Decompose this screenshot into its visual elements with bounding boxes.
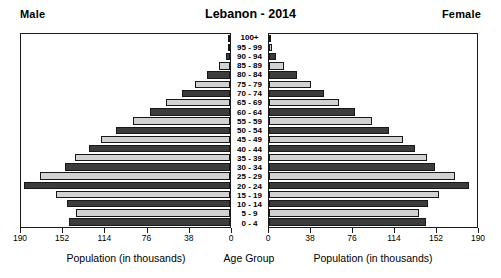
age-group-label: 55 - 59 (231, 117, 268, 126)
bar-row (21, 52, 230, 61)
bar-row (269, 144, 477, 153)
female-bar-0-4 (269, 218, 426, 225)
bar-row (269, 181, 477, 190)
bar-row (21, 163, 230, 172)
bar-row (21, 43, 230, 52)
female-plot-area (268, 33, 478, 228)
axis-tick-label: 114 (387, 233, 401, 243)
axis-tick-label: 0 (266, 233, 271, 243)
age-group-label: 50 - 54 (231, 126, 268, 135)
age-group-label: 30 - 34 (231, 163, 268, 172)
age-group-label: 100+ (231, 33, 268, 42)
population-pyramid-chart: Male Lebanon - 2014 Female 100+95 - 9990… (0, 0, 501, 278)
female-bar-5-9 (269, 209, 419, 216)
bar-row (269, 43, 477, 52)
male-bar-35-39 (75, 154, 230, 161)
male-bar-0-4 (69, 218, 230, 225)
male-bar-30-34 (65, 163, 230, 170)
axis-tick-label: 76 (142, 233, 151, 243)
axis-tick-label: 190 (13, 233, 27, 243)
age-group-label: 25 - 29 (231, 172, 268, 181)
bar-row (269, 209, 477, 218)
bar-row (21, 190, 230, 199)
axis-tick-label: 38 (184, 233, 193, 243)
age-group-label: 20 - 24 (231, 182, 268, 191)
bar-row (21, 98, 230, 107)
age-group-label: 35 - 39 (231, 154, 268, 163)
bar-row (21, 62, 230, 71)
bar-row (269, 172, 477, 181)
male-bar-90-94 (226, 53, 230, 60)
bar-row (21, 34, 230, 43)
age-group-label: 60 - 64 (231, 108, 268, 117)
bar-row (21, 144, 230, 153)
bar-row (269, 135, 477, 144)
female-bar-90-94 (269, 53, 276, 60)
age-group-label: 0 - 4 (231, 219, 268, 228)
female-bar-50-54 (269, 127, 389, 134)
bar-row (269, 117, 477, 126)
bar-row (269, 98, 477, 107)
age-group-label: 65 - 69 (231, 98, 268, 107)
age-group-label: 45 - 49 (231, 135, 268, 144)
female-bar-20-24 (269, 182, 469, 189)
bar-row (21, 117, 230, 126)
male-bar-75-79 (195, 81, 230, 88)
female-bar-35-39 (269, 154, 427, 161)
age-group-label: 75 - 79 (231, 80, 268, 89)
female-bar-60-64 (269, 108, 355, 115)
bar-row (21, 80, 230, 89)
male-plot-area (20, 33, 231, 228)
male-x-axis-ticks: 19015211476380 (20, 228, 231, 235)
age-group-label: 5 - 9 (231, 209, 268, 218)
bar-row (21, 126, 230, 135)
age-group-axis: 100+95 - 9990 - 9485 - 8980 - 8475 - 797… (231, 33, 268, 228)
age-group-label: 95 - 99 (231, 43, 268, 52)
male-bar-85-89 (219, 62, 230, 69)
bar-row (21, 218, 230, 227)
male-bar-95-99 (228, 44, 230, 51)
male-axis-title: Population (in thousands) (66, 252, 185, 264)
female-bar-80-84 (269, 71, 297, 78)
bar-row (269, 108, 477, 117)
axis-tick-label: 190 (471, 233, 485, 243)
male-bar-10-14 (67, 200, 230, 207)
age-group-label: 10 - 14 (231, 200, 268, 209)
female-bar-75-79 (269, 81, 311, 88)
bar-row (269, 199, 477, 208)
axis-tick-label: 0 (229, 233, 234, 243)
bar-row (269, 126, 477, 135)
female-bar-100+ (269, 35, 271, 42)
bar-row (269, 52, 477, 61)
age-axis-title: Age Group (224, 252, 275, 264)
bar-row (21, 199, 230, 208)
bar-row (269, 80, 477, 89)
female-bar-45-49 (269, 136, 403, 143)
female-bar-30-34 (269, 163, 435, 170)
age-group-label: 15 - 19 (231, 191, 268, 200)
bar-row (269, 163, 477, 172)
bar-row (21, 71, 230, 80)
bar-row (21, 89, 230, 98)
male-bar-5-9 (76, 209, 230, 216)
axis-tick-label: 152 (429, 233, 443, 243)
male-bar-rows (21, 34, 230, 227)
male-bar-20-24 (24, 182, 230, 189)
female-bar-70-74 (269, 90, 324, 97)
female-bar-65-69 (269, 99, 339, 106)
bar-row (269, 89, 477, 98)
female-bar-rows (269, 34, 477, 227)
female-bar-10-14 (269, 200, 428, 207)
male-bar-50-54 (116, 127, 230, 134)
male-bar-65-69 (166, 99, 230, 106)
male-bar-40-44 (89, 145, 230, 152)
bar-row (269, 34, 477, 43)
bar-row (21, 108, 230, 117)
female-x-axis-ticks: 03876114152190 (268, 228, 478, 235)
chart-title: Lebanon - 2014 (0, 7, 501, 21)
male-bar-55-59 (133, 117, 230, 124)
age-group-label: 70 - 74 (231, 89, 268, 98)
bar-row (21, 154, 230, 163)
bar-row (269, 218, 477, 227)
age-group-label: 85 - 89 (231, 61, 268, 70)
